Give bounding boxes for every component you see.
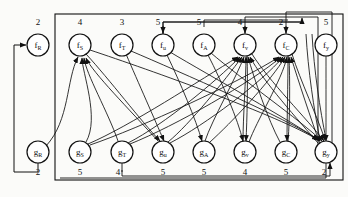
top-number-7: 5 [324, 17, 329, 27]
node-gy-sub: y [327, 152, 330, 158]
node-fR-sub: R [37, 45, 41, 51]
bottom-number-3: 5 [161, 167, 166, 177]
node-fu-sub: u [163, 45, 166, 51]
edges-g-to-f [46, 57, 320, 146]
bus-arrow-heads [163, 26, 286, 33]
top-number-6: 2 [279, 17, 284, 27]
bottom-number-5: 4 [243, 167, 248, 177]
top-number-3: 5 [156, 17, 161, 27]
top-number-1: 4 [78, 17, 83, 27]
node-gR-sub: R [38, 152, 42, 158]
top-node-group [27, 34, 337, 56]
top-number-5: 4 [238, 17, 243, 27]
top-node-labels: fR fS fT fu fA fv fC fy [34, 40, 329, 51]
node-gC-sub: C [286, 152, 290, 158]
node-gv-sub: v [246, 152, 249, 158]
node-fC-sub: C [285, 45, 289, 51]
graph-diagram: fR fS fT fu fA fv fC fy gR gS gT gu gA g… [0, 0, 348, 197]
node-gS-sub: S [81, 152, 84, 158]
node-fy-sub: y [326, 45, 329, 51]
bottom-node-labels: gR gS gT gu gA gv gC gy [34, 147, 330, 158]
node-gA-sub: A [204, 152, 209, 158]
top-number-0: 2 [36, 17, 41, 27]
top-number-2: 3 [120, 17, 125, 27]
bottom-node-group [27, 141, 337, 163]
bottom-number-2: 4 [116, 167, 121, 177]
bottom-number-6: 5 [284, 167, 289, 177]
figure-container: fR fS fT fu fA fv fC fy gR gS gT gu gA g… [0, 0, 348, 197]
node-gT-sub: T [122, 152, 126, 158]
node-fv-sub: v [245, 45, 248, 51]
top-number-4: 5 [197, 17, 202, 27]
bottom-number-labels: 2 5 4 5 5 4 5 2 [36, 167, 327, 177]
bottom-number-0: 2 [36, 167, 41, 177]
bottom-number-7: 2 [322, 167, 327, 177]
bottom-bus-lines [60, 163, 330, 178]
node-fT-sub: T [122, 45, 126, 51]
bottom-number-4: 5 [202, 167, 207, 177]
node-fA-sub: A [203, 45, 208, 51]
node-gu-sub: u [164, 152, 167, 158]
node-fS-sub: S [80, 45, 83, 51]
bottom-number-1: 5 [78, 167, 83, 177]
